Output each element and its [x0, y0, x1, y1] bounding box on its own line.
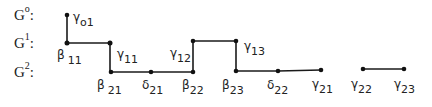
greek-letter: β	[222, 78, 230, 92]
row-label-base: G	[14, 7, 25, 23]
row-label-sup: 2	[25, 60, 30, 71]
node-delta21	[149, 70, 154, 75]
row-label-g2: G2:	[14, 62, 34, 81]
label-beta22: β22	[182, 78, 204, 95]
subscript: 11	[68, 54, 82, 67]
row-label-colon: :	[30, 35, 34, 51]
row-label-colon: :	[30, 64, 34, 80]
row-label-base: G	[14, 64, 25, 80]
node-gamma01	[65, 13, 70, 18]
label-gamma22: γ22	[351, 77, 372, 94]
node-gamma13	[234, 39, 239, 44]
node-beta11	[65, 41, 70, 46]
label-beta23: β23	[222, 78, 244, 95]
node-gamma23	[402, 67, 407, 72]
label-gamma01: γo1	[73, 10, 94, 27]
subscript: 22	[274, 84, 288, 97]
node-beta22	[191, 70, 196, 75]
greek-letter: β	[97, 78, 105, 92]
subscript: 22	[190, 84, 204, 97]
label-delta22: δ22	[267, 78, 288, 95]
subscript: 11	[124, 53, 138, 66]
label-gamma23: γ23	[394, 77, 415, 94]
node-delta22	[276, 69, 281, 74]
row-label-colon: :	[30, 7, 34, 23]
subscript: o1	[80, 16, 94, 29]
label-beta11: β11	[57, 48, 82, 65]
node-gamma22	[361, 67, 366, 72]
label-gamma21: γ21	[312, 77, 333, 94]
label-gamma13: γ13	[244, 39, 265, 56]
row-label-g1: G1:	[14, 33, 34, 52]
greek-letter: β	[57, 48, 65, 62]
row-label-sup: o	[25, 3, 30, 14]
greek-letter: β	[182, 78, 190, 92]
row-label-base: G	[14, 35, 25, 51]
node-gamma12	[191, 39, 196, 44]
node-beta21	[109, 70, 114, 75]
edge-delta22-gamma21	[278, 70, 321, 71]
node-gamma11	[108, 41, 113, 46]
subscript: 21	[108, 84, 122, 97]
label-beta21: β21	[97, 78, 122, 95]
subscript: 13	[251, 45, 265, 58]
row-label-sup: 1	[25, 31, 30, 42]
row-label-g0: Go:	[14, 5, 34, 24]
subscript: 23	[401, 83, 415, 96]
subscript: 21	[149, 84, 163, 97]
subscript: 22	[358, 83, 372, 96]
subscript: 12	[177, 52, 191, 65]
node-beta23	[234, 69, 239, 74]
label-gamma12: γ12	[170, 46, 191, 63]
subscript: 23	[230, 84, 244, 97]
label-gamma11: γ11	[117, 47, 138, 64]
node-gamma21	[319, 68, 324, 73]
label-delta21: δ21	[142, 78, 163, 95]
subscript: 21	[319, 83, 333, 96]
